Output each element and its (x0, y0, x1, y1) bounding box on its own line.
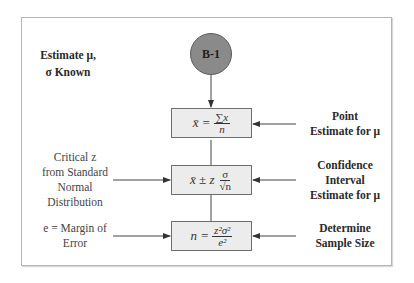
title-line-2: σ Known (28, 65, 108, 80)
right-label-confidence-interval: Confidence Interval Estimate for μ (300, 158, 390, 203)
numerator: z²σ² (212, 225, 232, 237)
title-label: Estimate μ, σ Known (28, 48, 108, 80)
formula-lhs: x̄ = (193, 115, 211, 131)
numerator: ∑x (214, 112, 231, 124)
confidence-interval-box: x̄ ± z σ √n (171, 165, 252, 195)
node-label: B-1 (202, 47, 220, 62)
left-label-margin-of-error: e = Margin of Error (30, 221, 120, 251)
label-line: Determine (300, 221, 390, 236)
label-line: Confidence (300, 158, 390, 173)
label-line: Normal (30, 180, 120, 195)
right-label-sample-size: Determine Sample Size (300, 221, 390, 251)
node-b1: B-1 (190, 33, 232, 75)
denominator: √n (217, 181, 233, 192)
sample-size-box: n = z²σ² e² (171, 221, 252, 251)
label-line: Distribution (30, 195, 120, 210)
fraction: z²σ² e² (212, 225, 232, 248)
label-line: Sample Size (300, 236, 390, 251)
title-line-1: Estimate μ, (28, 48, 108, 63)
label-line: Critical z (30, 150, 120, 165)
label-line: Interval (300, 173, 390, 188)
right-label-point-estimate: Point Estimate for μ (300, 109, 390, 139)
denominator: n (217, 124, 227, 135)
numerator: σ (220, 169, 230, 181)
fraction: σ √n (217, 169, 233, 192)
denominator: e² (216, 237, 228, 248)
point-estimate-box: x̄ = ∑x n (171, 108, 252, 138)
formula-lhs: x̄ ± z (190, 172, 214, 188)
label-line: from Standard (30, 165, 120, 180)
formula-lhs: n = (191, 228, 210, 244)
label-line: Point (300, 109, 390, 124)
label-line: Error (30, 236, 120, 251)
label-line: Estimate for μ (300, 124, 390, 139)
left-label-critical-z: Critical z from Standard Normal Distribu… (30, 150, 120, 210)
label-line: e = Margin of (30, 221, 120, 236)
fraction: ∑x n (214, 112, 231, 135)
label-line: Estimate for μ (300, 188, 390, 203)
